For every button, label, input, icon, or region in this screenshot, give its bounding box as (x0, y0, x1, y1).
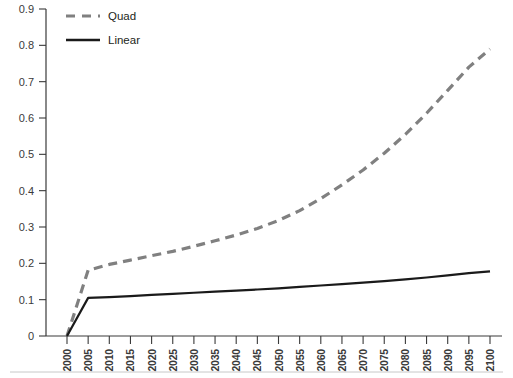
x-tick-label: 2065 (336, 349, 348, 372)
y-tick-label: 0.9 (19, 3, 34, 15)
chart-container: 00.10.20.30.40.50.60.70.80.9 20002005201… (0, 0, 513, 378)
y-tick-label: 0 (28, 330, 34, 342)
x-tick-label: 2055 (294, 349, 306, 372)
x-tick-label: 2025 (167, 349, 179, 372)
x-tick-label: 2045 (251, 349, 263, 372)
y-tick-label: 0.7 (19, 76, 34, 88)
x-tick-label: 2010 (103, 349, 115, 372)
y-tick-label: 0.2 (19, 257, 34, 269)
x-tick-label: 2030 (188, 349, 200, 372)
x-tick-label: 2100 (484, 349, 496, 372)
legend-label-linear: Linear (108, 34, 140, 46)
x-tick-label: 2015 (124, 349, 136, 372)
x-tick-label: 2000 (61, 349, 73, 372)
y-tick-label: 0.8 (19, 39, 34, 51)
x-tick-label: 2075 (378, 349, 390, 372)
x-tick-label: 2090 (442, 349, 454, 372)
x-tick-label: 2085 (421, 349, 433, 372)
x-tick-label: 2050 (273, 349, 285, 372)
x-tick-label: 2070 (357, 349, 369, 372)
x-tick-label: 2060 (315, 349, 327, 372)
x-tick-label: 2020 (146, 349, 158, 372)
x-tick-label: 2040 (230, 349, 242, 372)
x-tick-label: 2095 (463, 349, 475, 372)
x-tick-label: 2035 (209, 349, 221, 372)
y-tick-label: 0.6 (19, 112, 34, 124)
y-tick-label: 0.3 (19, 221, 34, 233)
x-tick-label: 2080 (399, 349, 411, 372)
plot-background (0, 0, 513, 378)
y-tick-label: 0.1 (19, 294, 34, 306)
y-tick-label: 0.4 (19, 185, 34, 197)
x-tick-label: 2005 (82, 349, 94, 372)
line-chart: 00.10.20.30.40.50.60.70.80.9 20002005201… (0, 0, 513, 378)
y-tick-label: 0.5 (19, 148, 34, 160)
legend-label-quad: Quad (108, 10, 136, 22)
